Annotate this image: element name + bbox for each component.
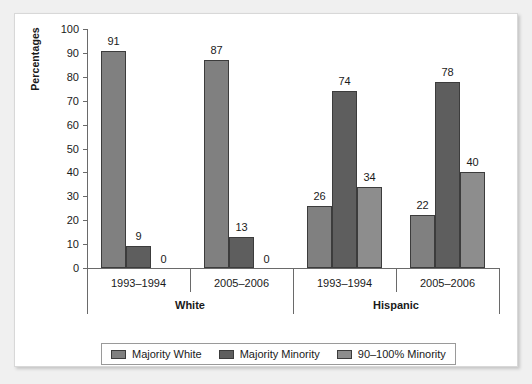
y-tick-label: 60: [51, 120, 79, 131]
chart-legend: Majority White Majority Minority 90–100%…: [101, 343, 456, 365]
y-tick-label: 20: [51, 215, 79, 226]
y-tick-label: 0: [51, 263, 79, 274]
period-label: 1993–1994: [87, 277, 190, 289]
period-label: 1993–1994: [293, 277, 396, 289]
period-label: 2005–2006: [190, 277, 293, 289]
legend-swatch-icon: [219, 350, 234, 359]
chart-panel: Percentages 1009080706050403020100 91908…: [14, 13, 518, 367]
legend-swatch-icon: [111, 350, 126, 359]
bar: [332, 91, 357, 268]
bar-value-label: 22: [410, 200, 435, 211]
bar-value-label: 9: [126, 231, 151, 242]
legend-label: Majority White: [132, 348, 202, 360]
y-tick-label: 90: [51, 48, 79, 59]
bar-value-label: 13: [229, 222, 254, 233]
y-tick-label: 30: [51, 191, 79, 202]
bar-value-label: 87: [204, 45, 229, 56]
axis-end-separator: [499, 268, 500, 314]
y-tick-label: 50: [51, 144, 79, 155]
y-axis-title: Percentages: [29, 0, 41, 119]
bar: [126, 246, 151, 268]
bar: [357, 187, 382, 268]
bar: [229, 237, 254, 268]
bar-value-label: 26: [307, 191, 332, 202]
legend-item-majority-white: Majority White: [111, 348, 202, 360]
y-tick-label: 10: [51, 239, 79, 250]
y-axis-line: [87, 29, 88, 268]
legend-swatch-icon: [337, 350, 352, 359]
bar-value-label: 74: [332, 76, 357, 87]
legend-item-90-100-minority: 90–100% Minority: [337, 348, 446, 360]
bar: [204, 60, 229, 268]
y-tick-label: 40: [51, 167, 79, 178]
period-label: 2005–2006: [396, 277, 499, 289]
bar-value-label: 34: [357, 172, 382, 183]
bar: [460, 172, 485, 268]
bar-value-label: 78: [435, 67, 460, 78]
y-tick-label: 80: [51, 72, 79, 83]
legend-item-majority-minority: Majority Minority: [219, 348, 320, 360]
legend-label: Majority Minority: [240, 348, 320, 360]
category-label: Hispanic: [293, 299, 499, 311]
category-label: White: [87, 299, 293, 311]
plot-area: Percentages 1009080706050403020100 91908…: [15, 14, 519, 368]
bar-value-label: 40: [460, 157, 485, 168]
y-tick-label: 100: [51, 24, 79, 35]
bar: [435, 82, 460, 268]
bar: [307, 206, 332, 268]
bar: [410, 215, 435, 268]
bar-value-label: 0: [151, 254, 176, 265]
bar-value-label: 91: [101, 36, 126, 47]
bar: [101, 51, 126, 268]
legend-label: 90–100% Minority: [358, 348, 446, 360]
y-tick-label: 70: [51, 96, 79, 107]
bar-value-label: 0: [254, 254, 279, 265]
